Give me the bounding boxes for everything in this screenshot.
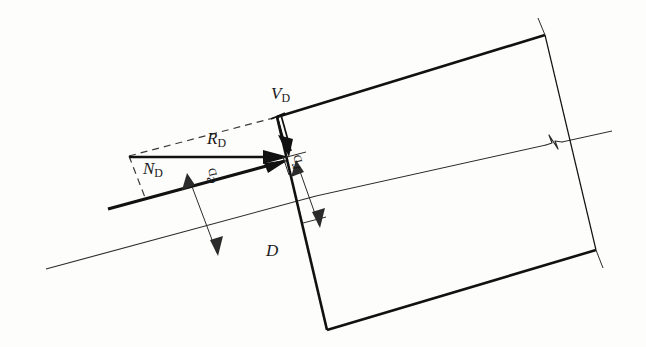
member-outline-group — [277, 35, 596, 330]
shear-force-vector — [271, 113, 293, 157]
normal-force-label-base: N — [143, 159, 154, 178]
resultant-force-label-subscript: D — [217, 136, 226, 150]
radius-extension-tick-bottom — [303, 217, 326, 223]
centerline-mid-segment — [316, 145, 546, 196]
break-symbol-icon — [546, 135, 562, 149]
shear-force-label: VD — [271, 85, 290, 105]
right-edge-extension-bottom — [596, 250, 603, 268]
member-centerline-group — [46, 131, 612, 269]
member-bottom-edge — [327, 250, 596, 330]
resultant-force-label-base: R — [207, 129, 217, 148]
point-d-label-base: D — [266, 241, 278, 260]
member-top-edge — [277, 35, 545, 117]
resultant-force-label: RD — [207, 130, 226, 150]
right-edge-extension-top — [538, 18, 545, 35]
shear-force-label-base: V — [271, 84, 281, 103]
normal-force-shaft — [108, 161, 285, 209]
shear-force-label-subscript: D — [281, 91, 290, 105]
normal-force-label: ND — [143, 160, 163, 180]
diagram-canvas — [0, 0, 646, 347]
dashed-upper-line — [129, 117, 277, 156]
normal-force-label-subscript: D — [154, 166, 163, 180]
force-diagram-figure: VD RD ND D eD rD — [0, 0, 646, 347]
member-right-edge — [545, 35, 596, 250]
point-d-label: D — [266, 242, 278, 259]
